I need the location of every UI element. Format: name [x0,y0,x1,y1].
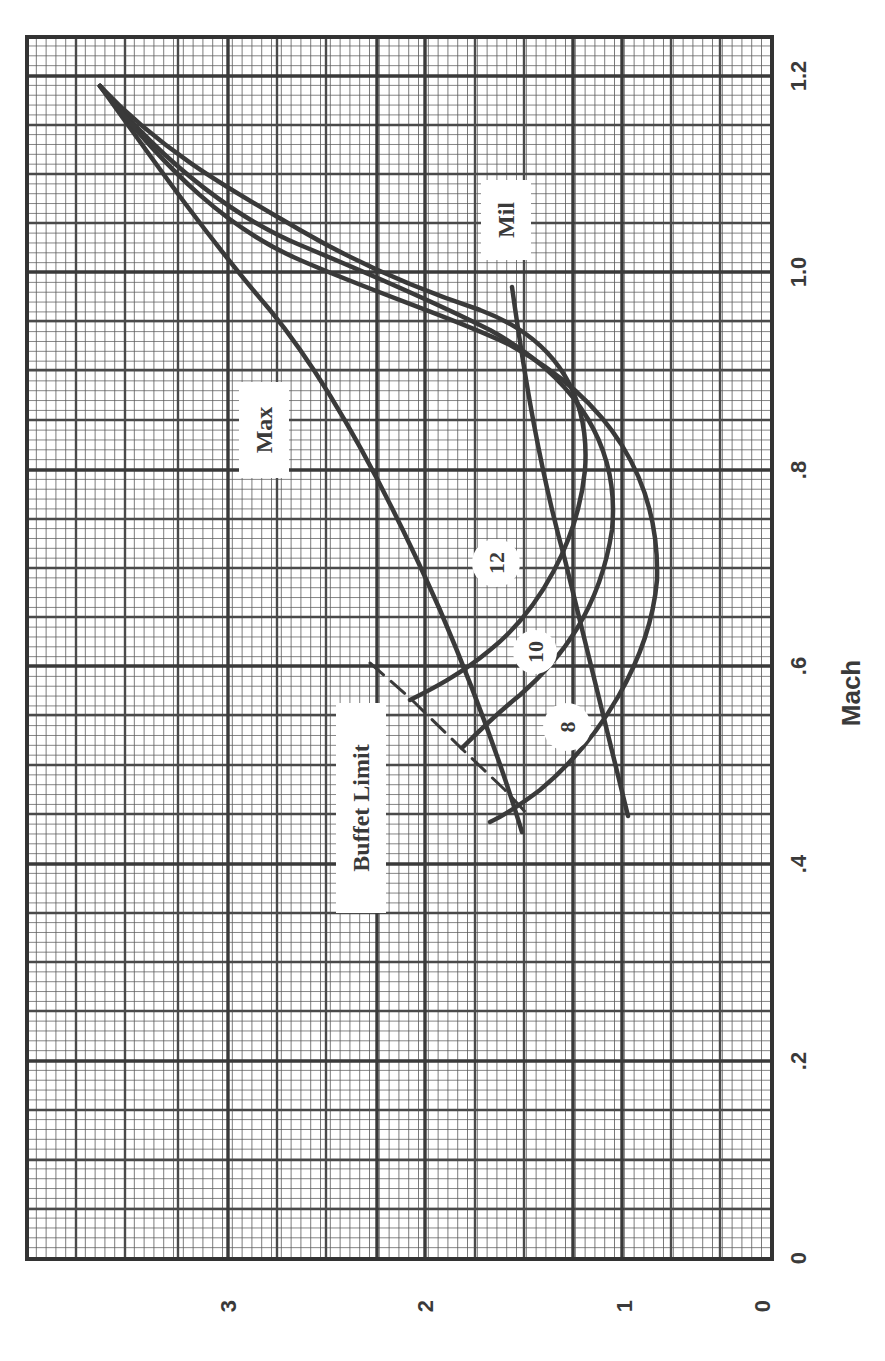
buffet-limit-label: Buffet Limit [348,744,374,871]
x-tick-1.2: 1.2 [786,61,811,92]
y-tick-3: 3 [216,1300,241,1312]
x-tick-0: 0 [786,1252,811,1264]
curve-12-label: 12 [484,552,509,574]
mil-label: Mil [493,202,519,238]
x-tick-.6: .6 [786,657,811,675]
x-tick-1.0: 1.0 [786,257,811,288]
x-axis-title: Mach [836,660,866,726]
max-label: Max [251,407,277,454]
x-tick-.4: .4 [786,854,811,873]
plot-area [27,37,772,1259]
y-axis-ticks: 3 2 1 0 [216,1300,775,1312]
y-tick-0: 0 [750,1300,775,1312]
x-tick-.2: .2 [786,1052,811,1070]
y-tick-1: 1 [612,1300,637,1312]
curve-8-label: 8 [555,722,580,733]
y-tick-2: 2 [413,1300,438,1312]
curve-10-label: 10 [523,641,548,663]
chart: Max Mil Buffet Limit 12 10 8 1.2 1.0 .8 … [0,0,885,1361]
x-tick-.8: .8 [786,461,811,479]
x-axis-ticks: 1.2 1.0 .8 .6 .4 .2 0 Mach [786,61,866,1264]
